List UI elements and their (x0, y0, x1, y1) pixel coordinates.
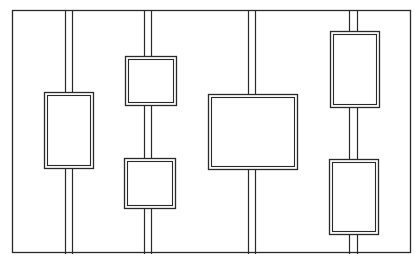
box-3 (125, 159, 176, 209)
box-2 (126, 57, 177, 106)
box-5 (331, 32, 380, 108)
line-diagram (0, 0, 420, 263)
box-1 (45, 93, 94, 169)
box-6 (330, 160, 379, 235)
box-4 (209, 95, 298, 170)
